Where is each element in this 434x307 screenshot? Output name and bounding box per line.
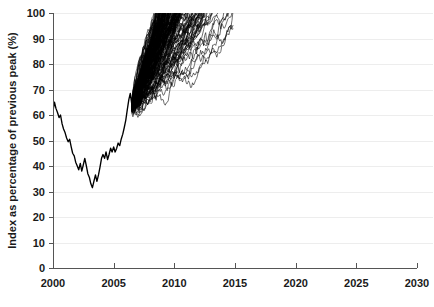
x-tick-label-2030: 2030 <box>405 277 429 289</box>
x-tick-label-2005: 2005 <box>101 277 125 289</box>
y-tick-label-90: 90 <box>33 33 45 45</box>
y-tick-label-100: 100 <box>27 7 45 19</box>
y-tick-label-30: 30 <box>33 186 45 198</box>
y-axis-title: Index as percentage of previous peak (%) <box>6 32 18 249</box>
y-tick-label-70: 70 <box>33 84 45 96</box>
y-tick-label-60: 60 <box>33 109 45 121</box>
chart-figure: 0102030405060708090100200020052010201520… <box>0 0 434 307</box>
x-tick-label-2015: 2015 <box>223 277 247 289</box>
x-tick-label-2010: 2010 <box>162 277 186 289</box>
y-tick-label-20: 20 <box>33 211 45 223</box>
y-tick-label-40: 40 <box>33 160 45 172</box>
x-tick-label-2025: 2025 <box>344 277 368 289</box>
y-tick-label-10: 10 <box>33 237 45 249</box>
y-tick-label-80: 80 <box>33 58 45 70</box>
chart-background <box>0 0 434 307</box>
y-tick-label-0: 0 <box>39 262 45 274</box>
chart-canvas: 0102030405060708090100200020052010201520… <box>0 0 434 307</box>
x-tick-label-2000: 2000 <box>41 277 65 289</box>
y-tick-label-50: 50 <box>33 135 45 147</box>
x-tick-label-2020: 2020 <box>283 277 307 289</box>
